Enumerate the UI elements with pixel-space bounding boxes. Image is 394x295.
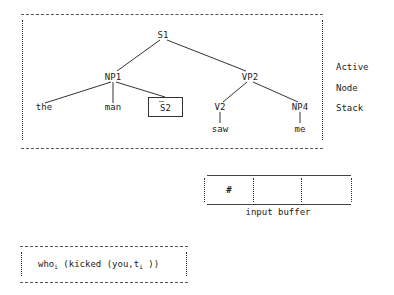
input-buffer-bottom-border xyxy=(207,204,351,205)
tree-node-v2: V2 xyxy=(215,102,226,112)
tree-node-vp2: VP2 xyxy=(242,72,258,82)
expression-frame-left-border xyxy=(21,252,22,276)
input-buffer-top-border xyxy=(207,175,351,176)
input-buffer-divider-2 xyxy=(301,178,302,202)
logical-form-expression: whoi (kicked (you,ti )) xyxy=(38,259,159,272)
stack-label-active: Active xyxy=(336,62,369,72)
stack-label-stack: Stack xyxy=(336,103,363,113)
input-buffer-divider-1 xyxy=(253,178,254,202)
tree-leaf-man: man xyxy=(105,102,121,112)
input-buffer: # xyxy=(203,175,353,205)
tree-node-s1: S1 xyxy=(158,30,169,40)
tree-leaf-saw: saw xyxy=(212,124,228,134)
tree-node-s2-box: S2 xyxy=(148,97,183,117)
expression-frame-top-border xyxy=(20,246,188,247)
expression-close: )) xyxy=(143,259,159,269)
stack-label-node: Node xyxy=(336,83,358,93)
tree-leaf-me: me xyxy=(295,124,306,134)
expression-frame-bottom-border xyxy=(20,282,188,283)
s2-bar-mark xyxy=(159,101,164,102)
input-buffer-cell-1: # xyxy=(205,185,253,195)
expression-wh-word: who xyxy=(38,259,54,269)
expression-frame-right-border xyxy=(186,252,187,276)
input-buffer-label: input buffer xyxy=(203,207,353,217)
tree-node-s2: S2 xyxy=(149,103,182,113)
tree-edges xyxy=(0,0,394,295)
tree-node-np1: NP1 xyxy=(105,72,121,82)
expression-predicate: (kicked (you,t xyxy=(58,259,139,269)
tree-node-np4: NP4 xyxy=(292,102,308,112)
input-buffer-divider-3 xyxy=(351,178,352,202)
tree-leaf-the: the xyxy=(36,102,52,112)
